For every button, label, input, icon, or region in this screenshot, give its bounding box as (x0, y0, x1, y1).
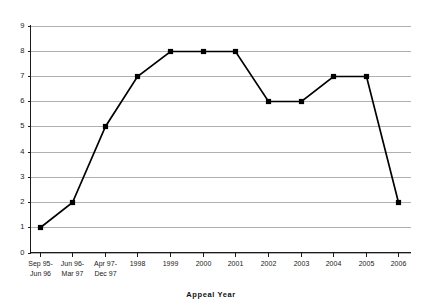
series-line (41, 52, 399, 228)
y-tick-label: 9 (20, 21, 24, 30)
line-chart: 0123456789 Sep 95-Jun 96Jun 96-Mar 97Apr… (0, 0, 422, 308)
x-tick-label: 2001 (228, 260, 244, 267)
y-tick-label: 5 (20, 121, 24, 130)
x-tick-label: Sep 95- (28, 260, 53, 268)
data-point-marker (168, 49, 173, 54)
x-tick-label: Dec 97 (94, 270, 116, 277)
x-tick-label: Apr 97- (94, 260, 118, 268)
x-tick-label: 1998 (130, 260, 146, 267)
x-tick-label: 2004 (326, 260, 342, 267)
y-tick-label: 7 (20, 71, 24, 80)
data-point-marker (331, 74, 336, 79)
x-tick-label: 2005 (359, 260, 375, 267)
x-tick-labels: Sep 95-Jun 96Jun 96-Mar 97Apr 97-Dec 971… (28, 260, 406, 277)
x-tick-label: Jun 96 (30, 270, 51, 277)
data-point-marker (135, 74, 140, 79)
y-tick-label: 8 (20, 46, 24, 55)
x-axis-title: Appeal Year (186, 290, 235, 299)
x-axis (31, 253, 411, 257)
data-point-marker (103, 124, 108, 129)
data-point-marker (266, 99, 271, 104)
chart-canvas: 0123456789 Sep 95-Jun 96Jun 96-Mar 97Apr… (0, 0, 422, 308)
y-tick-label: 4 (20, 147, 24, 156)
y-tick-label: 6 (20, 96, 24, 105)
data-point-marker (38, 225, 43, 230)
y-axis (28, 25, 31, 254)
y-tick-label: 1 (20, 222, 24, 231)
x-tick-label: 2002 (261, 260, 277, 267)
data-point-marker (396, 200, 401, 205)
y-tick-label: 2 (20, 197, 24, 206)
x-tick-label: Jun 96- (61, 260, 85, 267)
x-tick-label: 2006 (391, 260, 407, 267)
data-point-marker (299, 99, 304, 104)
y-tick-label: 3 (20, 172, 24, 181)
x-tick-label: Mar 97 (62, 270, 84, 277)
x-tick-label: 1999 (163, 260, 179, 267)
gridlines (31, 27, 411, 254)
y-tick-label: 0 (20, 248, 24, 257)
x-tick-label: 2003 (294, 260, 310, 267)
y-tick-labels: 0123456789 (20, 21, 24, 257)
data-point-marker (364, 74, 369, 79)
x-tick-label: 2000 (196, 260, 212, 267)
data-point-marker (201, 49, 206, 54)
data-point-marker (70, 200, 75, 205)
data-point-marker (233, 49, 238, 54)
